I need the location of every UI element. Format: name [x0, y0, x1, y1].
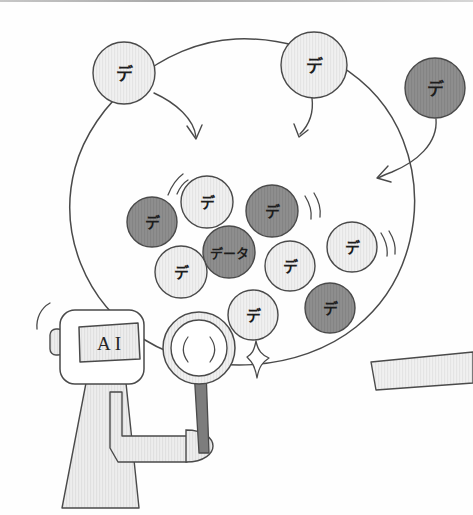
cluster-bubble: デ: [305, 283, 355, 333]
arrow-from-top-center-bubble: [294, 98, 312, 137]
incoming-bubble: デ: [405, 58, 465, 118]
visor-label: AI: [97, 333, 125, 354]
cluster-bubble: デ: [327, 222, 377, 272]
cluster-bubble: デ: [181, 176, 233, 228]
robot-arm: [110, 392, 187, 462]
cluster-bubble: デ: [228, 290, 278, 340]
motion-mark-robot-head: [37, 303, 50, 329]
motion-mark-right-lower: [381, 231, 395, 256]
magnifier-lens: [171, 320, 227, 376]
sparkle-icon: [247, 341, 269, 378]
cluster-bubble: デ: [265, 241, 315, 291]
sketch-svg: デ デ デ デ デ: [0, 0, 473, 515]
magnifying-glass: [163, 312, 235, 453]
illustration-canvas: デ デ デ デ デ: [0, 0, 473, 515]
cluster-bubble: デ: [155, 246, 207, 298]
cluster-bubble: デ: [127, 197, 177, 247]
incoming-bubble: デ: [93, 42, 155, 104]
cluster-bubble: データ: [203, 226, 255, 278]
incoming-bubble: デ: [281, 32, 347, 98]
cluster-bubble: デ: [246, 185, 298, 237]
motion-mark-right-upper: [305, 193, 320, 219]
curved-strip: [371, 352, 473, 390]
arrow-from-top-left-bubble: [154, 93, 202, 139]
